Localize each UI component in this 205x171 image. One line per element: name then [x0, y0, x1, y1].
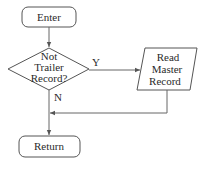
read-label-line-2: Master	[152, 63, 183, 75]
edge-no-label: N	[54, 91, 62, 103]
read-master-record-node: Read Master Record	[137, 48, 197, 90]
enter-label: Enter	[37, 11, 61, 23]
read-label-line-3: Record	[149, 75, 181, 87]
decision-node: Not Trailer Record?	[8, 48, 89, 90]
decision-label-line-3: Record?	[31, 72, 68, 84]
return-node: Return	[19, 136, 80, 157]
read-label-line-1: Read	[157, 51, 180, 63]
enter-node: Enter	[22, 7, 76, 27]
return-label: Return	[34, 140, 64, 152]
flowchart: Enter Not Trailer Record? Y Read Master …	[0, 0, 205, 171]
edge-yes-label: Y	[92, 56, 100, 68]
edge-read-return	[50, 90, 167, 113]
